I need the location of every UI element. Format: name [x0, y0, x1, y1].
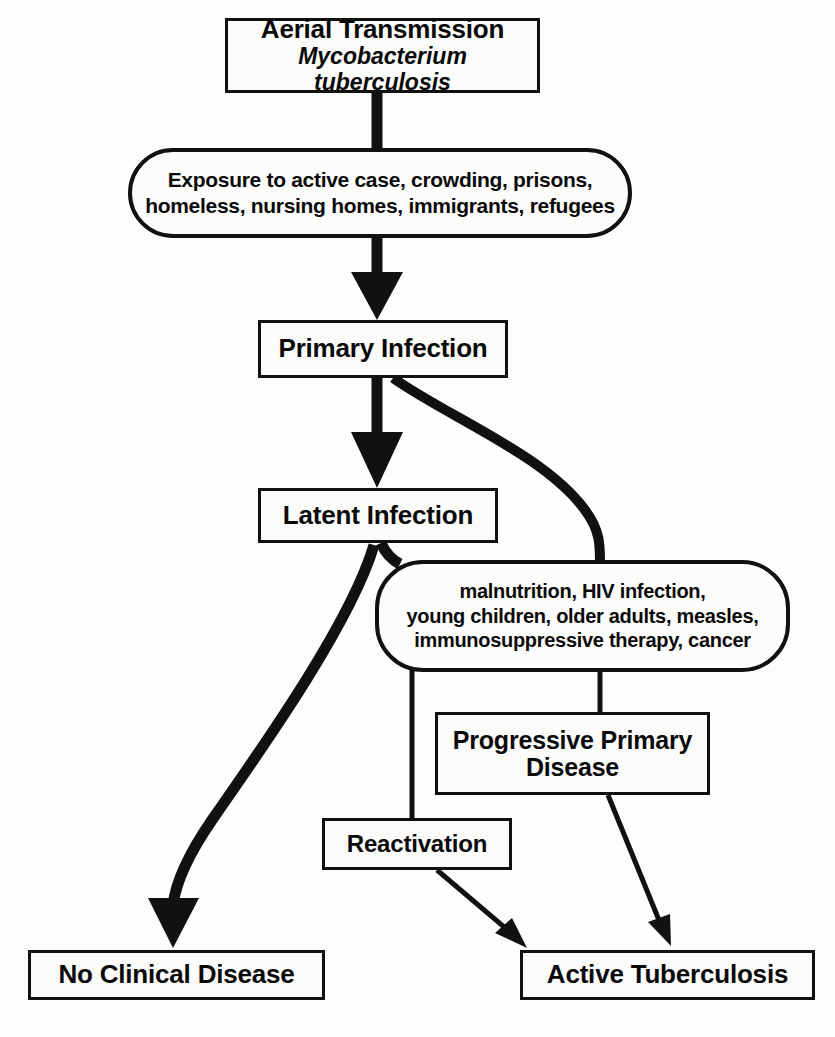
arrowhead-exposure-to-primary: [351, 272, 403, 320]
edge-reactivation-to-active-tb: [437, 870, 516, 937]
node-progressive-primary-disease-line1: Progressive Primary: [453, 727, 692, 753]
node-reactivation-label: Reactivation: [347, 831, 487, 856]
node-aerial-transmission-line1: Aerial Transmission: [261, 16, 504, 43]
node-latent-infection-label: Latent Infection: [283, 502, 473, 529]
node-exposure-line2: homeless, nursing homes, immigrants, ref…: [145, 193, 615, 219]
node-no-clinical-disease-label: No Clinical Disease: [58, 961, 294, 988]
node-host-risk-factors-line1: malnutrition, HIV infection,: [459, 579, 705, 604]
node-primary-infection-label: Primary Infection: [279, 335, 488, 362]
arrowhead-latent-to-no-clinical-disease: [148, 898, 199, 948]
node-aerial-transmission-line2: Mycobacterium tuberculosis: [228, 44, 537, 95]
node-progressive-primary-disease[interactable]: Progressive Primary Disease: [435, 712, 710, 795]
edge-latent-to-risk-factors: [381, 543, 400, 564]
node-latent-infection[interactable]: Latent Infection: [258, 488, 498, 543]
edge-progressive-to-active-tb: [608, 795, 663, 930]
node-active-tuberculosis[interactable]: Active Tuberculosis: [520, 950, 815, 1000]
node-host-risk-factors-line2: young children, older adults, measles,: [406, 604, 758, 629]
node-primary-infection[interactable]: Primary Infection: [258, 320, 508, 378]
node-progressive-primary-disease-line2: Disease: [526, 754, 619, 780]
arrowhead-primary-to-latent: [351, 432, 403, 488]
arrowhead-reactivation-to-active-tb: [495, 918, 527, 948]
node-host-risk-factors[interactable]: malnutrition, HIV infection, young child…: [375, 560, 790, 672]
node-exposure-risk-factors[interactable]: Exposure to active case, crowding, priso…: [128, 148, 632, 238]
node-exposure-line1: Exposure to active case, crowding, priso…: [168, 167, 593, 193]
node-reactivation[interactable]: Reactivation: [322, 818, 512, 870]
node-no-clinical-disease[interactable]: No Clinical Disease: [28, 950, 325, 1000]
arrowhead-progressive-to-active-tb: [648, 914, 671, 946]
node-active-tuberculosis-label: Active Tuberculosis: [547, 961, 788, 988]
flowchart-canvas: Aerial Transmission Mycobacterium tuberc…: [0, 0, 835, 1037]
node-host-risk-factors-line3: immunosuppressive therapy, cancer: [414, 628, 751, 653]
node-aerial-transmission[interactable]: Aerial Transmission Mycobacterium tuberc…: [225, 18, 540, 93]
